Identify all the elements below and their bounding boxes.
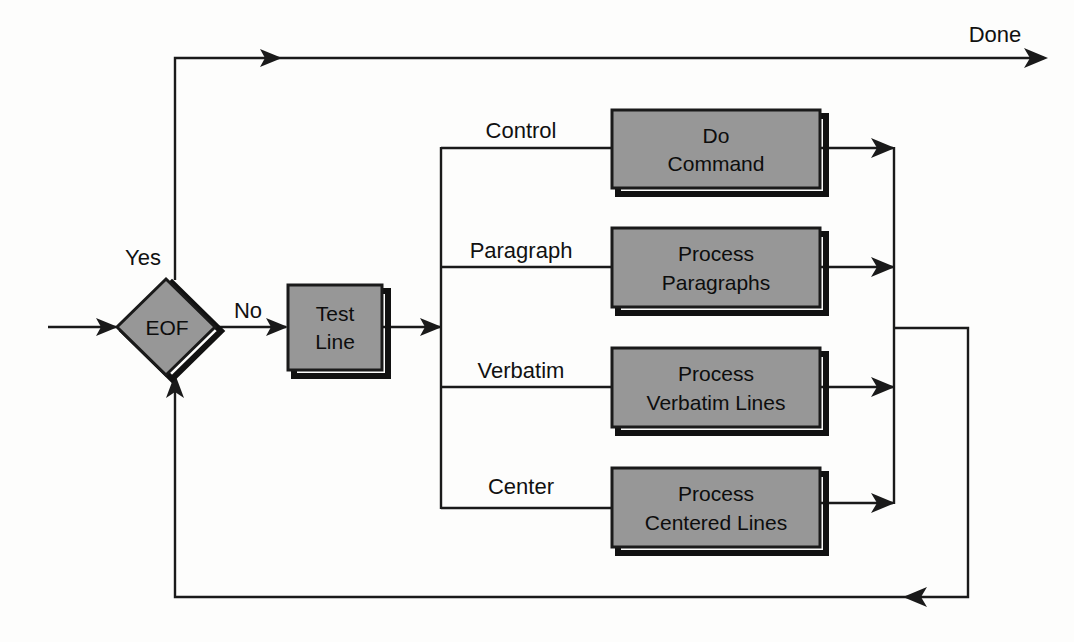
node-eof[interactable]: EOF: [117, 279, 221, 379]
node-process-paragraphs-label-line1: Process: [678, 242, 754, 265]
connector-exit-control: [820, 138, 895, 158]
connector-feedback-loop: [166, 328, 968, 607]
edge-label-yes: Yes: [125, 245, 161, 270]
edge-label-paragraph: Paragraph: [470, 238, 573, 263]
edge-label-verbatim: Verbatim: [478, 358, 565, 383]
node-test-line-label-line1: Test: [316, 302, 355, 325]
node-process-paragraphs[interactable]: Process Paragraphs: [612, 228, 826, 313]
node-process-centered[interactable]: Process Centered Lines: [612, 468, 826, 553]
node-process-verbatim-label-line2: Verbatim Lines: [647, 391, 786, 414]
node-process-paragraphs-label-line2: Paragraphs: [662, 271, 771, 294]
edge-label-no: No: [234, 298, 262, 323]
connector-exit-verbatim: [820, 377, 895, 397]
node-do-command[interactable]: Do Command: [612, 110, 826, 194]
node-test-line-label-line2: Line: [315, 330, 355, 353]
node-test-line[interactable]: Test Line: [288, 285, 388, 376]
edge-label-done: Done: [969, 22, 1022, 47]
node-process-verbatim-label-line1: Process: [678, 362, 754, 385]
flowchart-svg: EOF Test Line Do Command Process Paragra…: [0, 0, 1074, 642]
flowchart-canvas: EOF Test Line Do Command Process Paragra…: [0, 0, 1074, 642]
node-eof-label: EOF: [145, 316, 188, 339]
node-do-command-label-line1: Do: [703, 124, 730, 147]
edge-label-center: Center: [488, 474, 554, 499]
edge-label-control: Control: [486, 118, 557, 143]
node-process-centered-label-line2: Centered Lines: [645, 511, 787, 534]
connector-exit-center: [820, 493, 895, 513]
node-process-verbatim[interactable]: Process Verbatim Lines: [612, 348, 826, 433]
connector-exit-paragraph: [820, 257, 895, 277]
node-process-centered-label-line1: Process: [678, 482, 754, 505]
connector-input: [48, 318, 118, 336]
node-do-command-label-line2: Command: [668, 152, 765, 175]
